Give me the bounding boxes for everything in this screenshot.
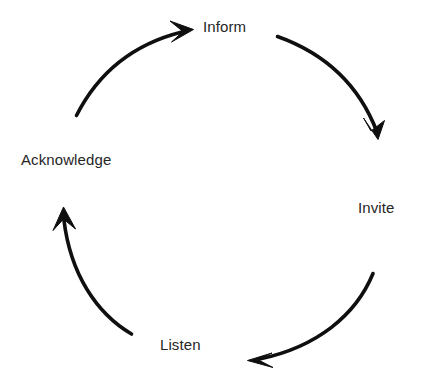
cycle-arrows-svg	[0, 0, 423, 391]
arrow-invite-to-listen	[248, 274, 374, 368]
cycle-diagram: Inform Invite Listen Acknowledge	[0, 0, 423, 391]
node-label-invite: Invite	[358, 199, 394, 217]
arrow-listen-to-acknowledge	[53, 207, 132, 334]
arrow-invite-to-listen-path	[260, 274, 374, 360]
arrow-listen-to-acknowledge-path	[64, 221, 132, 335]
arrow-acknowledge-to-inform	[77, 21, 194, 116]
arrow-inform-to-invite	[278, 37, 385, 140]
node-label-inform: Inform	[203, 18, 246, 36]
arrow-inform-to-invite-path	[278, 37, 378, 133]
arrow-acknowledge-to-inform-path	[77, 32, 183, 116]
node-label-listen: Listen	[160, 336, 201, 354]
node-label-acknowledge: Acknowledge	[21, 151, 111, 169]
